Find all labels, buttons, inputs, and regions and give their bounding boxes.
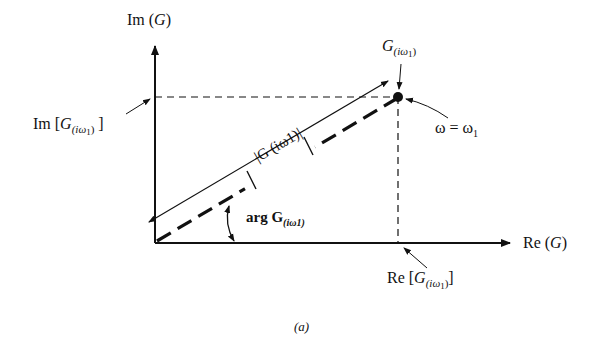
argument-label: arg G(iω1) — [246, 210, 305, 225]
omega-text: ω = ω — [435, 119, 473, 136]
re-value-leader — [404, 248, 427, 268]
arg-angle-arc — [227, 206, 234, 241]
im-value-leader — [126, 99, 150, 114]
point-sub: (iω — [394, 45, 409, 57]
point-g-iw1 — [393, 92, 403, 102]
real-axis-label: Re (G) — [523, 235, 567, 251]
re-value-sub: (iω — [426, 277, 441, 289]
arg-var: G — [271, 209, 283, 225]
arg-sub: (iω1) — [283, 217, 305, 228]
omega-label: ω = ω1 — [435, 120, 478, 136]
imaginary-axis-label: Im (G) — [127, 12, 171, 28]
im-axis-suffix: ) — [166, 11, 171, 28]
im-value-sub-index: 1 — [86, 127, 91, 137]
im-value-prefix: Im [ — [33, 115, 60, 132]
diagram-canvas — [0, 0, 605, 353]
im-value-sub-close: ) — [91, 123, 95, 135]
point-var: G — [382, 37, 394, 54]
caption-text: (a) — [294, 319, 309, 334]
re-value-var: G — [414, 269, 426, 286]
re-value-label: Re [G(iω1)] — [387, 270, 454, 286]
im-value-sub: (iω — [72, 123, 87, 135]
im-value-var: G — [60, 115, 72, 132]
re-value-suffix: ] — [448, 269, 453, 286]
point-label: G(iω1) — [382, 38, 416, 54]
point-sub-index: 1 — [408, 49, 413, 59]
im-axis-prefix: Im ( — [127, 11, 154, 28]
im-value-label: Im [G(iω1) ] — [33, 116, 104, 132]
im-axis-var: G — [154, 11, 166, 28]
omega-leader — [406, 99, 448, 118]
re-value-sub-close: ) — [445, 277, 449, 289]
figure-caption: (a) — [294, 320, 309, 333]
omega-index: 1 — [473, 128, 478, 139]
re-axis-suffix: ) — [562, 234, 567, 251]
re-axis-prefix: Re ( — [523, 234, 550, 251]
re-value-sub-index: 1 — [440, 281, 445, 291]
re-axis-var: G — [550, 234, 562, 251]
re-value-prefix: Re [ — [387, 269, 414, 286]
arg-prefix: arg — [246, 209, 271, 225]
point-label-leader — [399, 64, 401, 89]
im-value-suffix: ] — [94, 115, 103, 132]
point-sub-close: ) — [413, 45, 417, 57]
